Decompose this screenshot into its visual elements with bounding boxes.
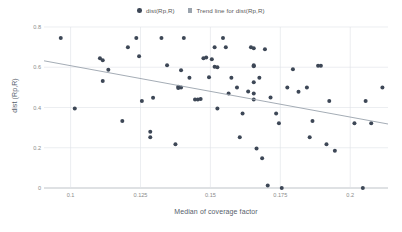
data-point[interactable]: [235, 85, 239, 89]
plot-area: [44, 27, 388, 188]
data-point[interactable]: [101, 58, 105, 62]
data-point[interactable]: [352, 121, 356, 125]
data-point[interactable]: [333, 149, 337, 153]
y-tick-label: 0.2: [33, 145, 41, 151]
data-point[interactable]: [151, 96, 155, 100]
x-tick-label: 0.1: [67, 192, 75, 198]
x-tick-label: 0.2: [346, 192, 354, 198]
data-point[interactable]: [159, 36, 163, 40]
trend-line: [44, 61, 388, 124]
square-swatch-icon: [188, 8, 193, 13]
data-point[interactable]: [297, 90, 301, 94]
data-point[interactable]: [215, 65, 219, 69]
x-axis-ticks: 0.10.1250.150.1750.2: [44, 192, 388, 202]
x-tick-label: 0.175: [273, 192, 287, 198]
data-point[interactable]: [165, 63, 169, 67]
legend-item-dist[interactable]: dist(Rp,R): [137, 7, 174, 14]
legend-label-trendline: Trend line for dist(Rp,R): [196, 7, 264, 14]
data-point[interactable]: [213, 45, 217, 49]
x-axis-title: Median of coverage factor: [44, 208, 388, 215]
data-point[interactable]: [73, 107, 77, 111]
legend-label-dist: dist(Rp,R): [146, 7, 175, 14]
data-point[interactable]: [252, 80, 256, 84]
data-point[interactable]: [101, 79, 105, 83]
data-point[interactable]: [229, 76, 233, 80]
data-point[interactable]: [266, 184, 270, 188]
data-point[interactable]: [252, 64, 256, 68]
data-point[interactable]: [221, 36, 225, 40]
data-point[interactable]: [285, 85, 289, 89]
data-point[interactable]: [187, 76, 191, 80]
data-point[interactable]: [319, 64, 323, 68]
data-point[interactable]: [224, 45, 228, 49]
data-point[interactable]: [308, 135, 312, 139]
data-point[interactable]: [269, 95, 273, 99]
data-point[interactable]: [238, 135, 242, 139]
data-point[interactable]: [252, 46, 256, 50]
chart-legend: dist(Rp,R) Trend line for dist(Rp,R): [0, 7, 402, 14]
data-point[interactable]: [257, 76, 261, 80]
data-point[interactable]: [182, 36, 186, 40]
data-point[interactable]: [364, 99, 368, 103]
data-point[interactable]: [204, 56, 208, 60]
data-point[interactable]: [324, 142, 328, 146]
data-point[interactable]: [246, 89, 250, 93]
data-point[interactable]: [327, 99, 331, 103]
data-point[interactable]: [274, 112, 278, 116]
data-point[interactable]: [120, 119, 124, 123]
data-point[interactable]: [252, 91, 256, 95]
data-point[interactable]: [263, 47, 267, 51]
data-point[interactable]: [106, 68, 110, 72]
legend-item-trendline[interactable]: Trend line for dist(Rp,R): [188, 7, 265, 14]
data-point[interactable]: [310, 119, 314, 123]
data-point[interactable]: [126, 45, 130, 49]
data-point[interactable]: [199, 97, 203, 101]
data-point[interactable]: [215, 107, 219, 111]
y-axis-ticks: 0.80.60.40.20: [22, 27, 41, 188]
data-point[interactable]: [207, 75, 211, 79]
data-point[interactable]: [137, 54, 141, 58]
data-point[interactable]: [210, 57, 214, 61]
data-point[interactable]: [59, 36, 63, 40]
data-point[interactable]: [369, 121, 373, 125]
data-point[interactable]: [280, 186, 284, 190]
y-tick-label: 0.4: [33, 105, 41, 111]
data-point[interactable]: [277, 121, 281, 125]
x-tick-label: 0.125: [133, 192, 147, 198]
data-point[interactable]: [241, 112, 245, 116]
scatter-chart: dist(Rp,R) Trend line for dist(Rp,R) 0.8…: [0, 0, 402, 232]
data-point[interactable]: [260, 156, 264, 160]
data-point[interactable]: [291, 67, 295, 71]
data-point[interactable]: [255, 147, 259, 151]
data-point[interactable]: [361, 186, 365, 190]
y-axis-title: dist (Rp,R): [11, 56, 18, 136]
data-point[interactable]: [305, 85, 309, 89]
y-tick-label: 0.6: [33, 64, 41, 70]
data-point[interactable]: [380, 85, 384, 89]
x-tick-label: 0.15: [205, 192, 216, 198]
data-point[interactable]: [140, 99, 144, 103]
circle-marker-icon: [137, 8, 142, 13]
data-point[interactable]: [134, 36, 138, 40]
data-point[interactable]: [179, 68, 183, 72]
y-tick-label: 0: [38, 185, 41, 191]
data-point[interactable]: [173, 142, 177, 146]
plot-canvas: [44, 27, 388, 188]
y-tick-label: 0.8: [33, 24, 41, 30]
data-point[interactable]: [148, 130, 152, 134]
data-point[interactable]: [148, 135, 152, 139]
